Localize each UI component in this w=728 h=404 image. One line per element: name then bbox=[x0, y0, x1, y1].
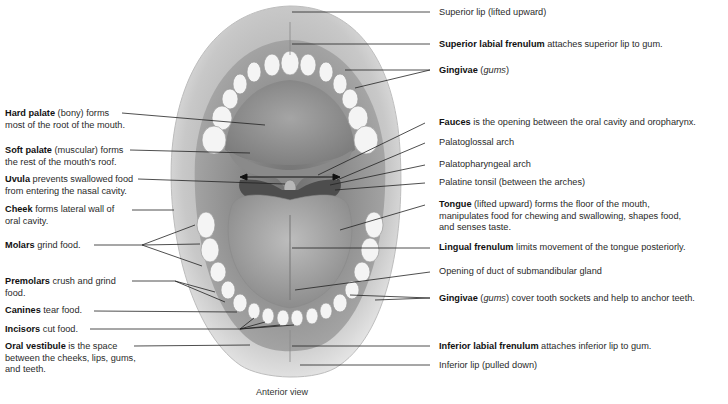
label-premolars: Premolars crush and grind food. bbox=[5, 276, 116, 299]
label-hard-palate: Hard palate (bony) forms most of the roo… bbox=[5, 108, 125, 131]
label-lingual-frenulum: Lingual frenulum limits movement of the … bbox=[439, 242, 685, 254]
label-superior-lip: Superior lip (lifted upward) bbox=[439, 7, 546, 19]
label-palatoglossal-arch: Palatoglossal arch bbox=[439, 137, 514, 149]
label-gingivae-lower: Gingivae (gums) cover tooth sockets and … bbox=[439, 293, 695, 305]
figure-caption: Anterior view bbox=[256, 387, 308, 397]
label-palatopharyngeal-arch: Palatopharyngeal arch bbox=[439, 159, 531, 171]
label-fauces: Fauces is the opening between the oral c… bbox=[439, 117, 696, 129]
label-superior-labial-frenulum: Superior labial frenulum attaches superi… bbox=[439, 39, 663, 51]
label-inferior-labial-frenulum: Inferior labial frenulum attaches inferi… bbox=[439, 341, 651, 353]
label-molars: Molars grind food. bbox=[5, 240, 81, 252]
label-inferior-lip: Inferior lip (pulled down) bbox=[439, 360, 537, 372]
label-oral-vestibule: Oral vestibule is the space between the … bbox=[5, 341, 136, 376]
label-cheek: Cheek forms lateral wall of oral cavity. bbox=[5, 204, 114, 227]
label-tongue: Tongue (lifted upward) forms the floor o… bbox=[439, 199, 681, 234]
label-submandibular-duct: Opening of duct of submandibular gland bbox=[439, 266, 602, 278]
label-gingivae-upper: Gingivae (gums) bbox=[439, 65, 509, 77]
label-palatine-tonsil: Palatine tonsil (between the arches) bbox=[439, 177, 585, 189]
label-uvula: Uvula prevents swallowed food from enter… bbox=[5, 174, 133, 197]
label-incisors: Incisors cut food. bbox=[5, 324, 78, 336]
label-soft-palate: Soft palate (muscular) forms the rest of… bbox=[5, 145, 123, 168]
label-canines: Canines tear food. bbox=[5, 305, 82, 317]
